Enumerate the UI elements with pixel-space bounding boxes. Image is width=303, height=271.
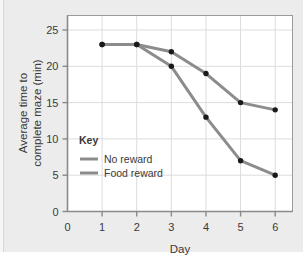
y-tick-label: 25 bbox=[46, 24, 58, 36]
y-axis-title-line1: Average time to bbox=[17, 73, 29, 153]
y-tick-label: 0 bbox=[52, 206, 58, 218]
y-tick-label: 10 bbox=[46, 133, 58, 145]
chart-page: 0510152025 0123456 Day Average time to c… bbox=[0, 0, 303, 271]
x-tick-label: 3 bbox=[168, 221, 174, 233]
x-tick-label: 1 bbox=[99, 221, 105, 233]
series-marker-0 bbox=[238, 100, 243, 105]
x-tick-label: 5 bbox=[238, 221, 244, 233]
series-marker-0 bbox=[272, 107, 277, 112]
series-marker-1 bbox=[238, 158, 243, 163]
legend-label-no-reward: No reward bbox=[104, 153, 153, 165]
series-marker-0 bbox=[203, 71, 208, 76]
x-axis-title: Day bbox=[170, 243, 191, 255]
y-tick-label: 15 bbox=[46, 97, 58, 109]
y-tick-label: 20 bbox=[46, 60, 58, 72]
series-marker-1 bbox=[203, 114, 208, 119]
x-tick-label: 6 bbox=[272, 221, 278, 233]
series-marker-1 bbox=[169, 64, 174, 69]
series-marker-0 bbox=[169, 49, 174, 54]
y-tick-label: 5 bbox=[52, 169, 58, 181]
x-tick-label: 2 bbox=[134, 221, 140, 233]
y-axis-title-line2: complete maze (min) bbox=[31, 59, 43, 167]
series-marker-1 bbox=[272, 173, 277, 178]
x-tick-label: 0 bbox=[64, 221, 70, 233]
legend-title: Key bbox=[79, 134, 98, 146]
line-chart: 0510152025 0123456 Day Average time to c… bbox=[0, 0, 303, 271]
x-axis-ticks: 0123456 bbox=[64, 212, 278, 233]
legend-label-food-reward: Food reward bbox=[104, 167, 163, 179]
y-axis-ticks: 0510152025 bbox=[46, 24, 67, 217]
x-tick-label: 4 bbox=[203, 221, 209, 233]
series-marker-1 bbox=[99, 42, 104, 47]
series-marker-1 bbox=[134, 42, 139, 47]
